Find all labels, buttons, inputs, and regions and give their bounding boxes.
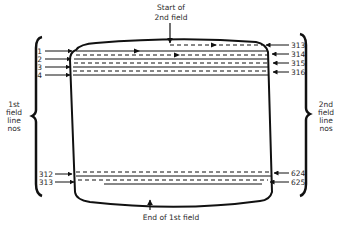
left-brace-label-4: nos <box>7 124 20 133</box>
start-of-2nd-field-label-line2: 2nd field <box>155 13 188 22</box>
line-number-314: 314 <box>291 50 306 59</box>
screen-outline <box>70 39 272 207</box>
scan-lines-top <box>73 43 269 76</box>
line-number-316: 316 <box>291 68 306 77</box>
line-number-624: 624 <box>291 169 306 178</box>
end-of-1st-field-label: End of 1st field <box>143 213 200 222</box>
line-number-313-left: 313 <box>39 178 54 187</box>
interlaced-scan-diagram: Start of 2nd field End of 1st field <box>0 0 342 226</box>
line-number-313-right: 313 <box>291 41 306 50</box>
right-brace-label-4: nos <box>319 124 332 133</box>
left-line-numbers: 1 2 3 4 312 313 <box>37 47 74 187</box>
line-number-4: 4 <box>37 71 42 80</box>
line-number-315: 315 <box>291 59 306 68</box>
scan-lines-bottom <box>76 172 271 184</box>
start-of-2nd-field-label: Start of <box>157 3 185 12</box>
line-number-625: 625 <box>291 178 306 187</box>
